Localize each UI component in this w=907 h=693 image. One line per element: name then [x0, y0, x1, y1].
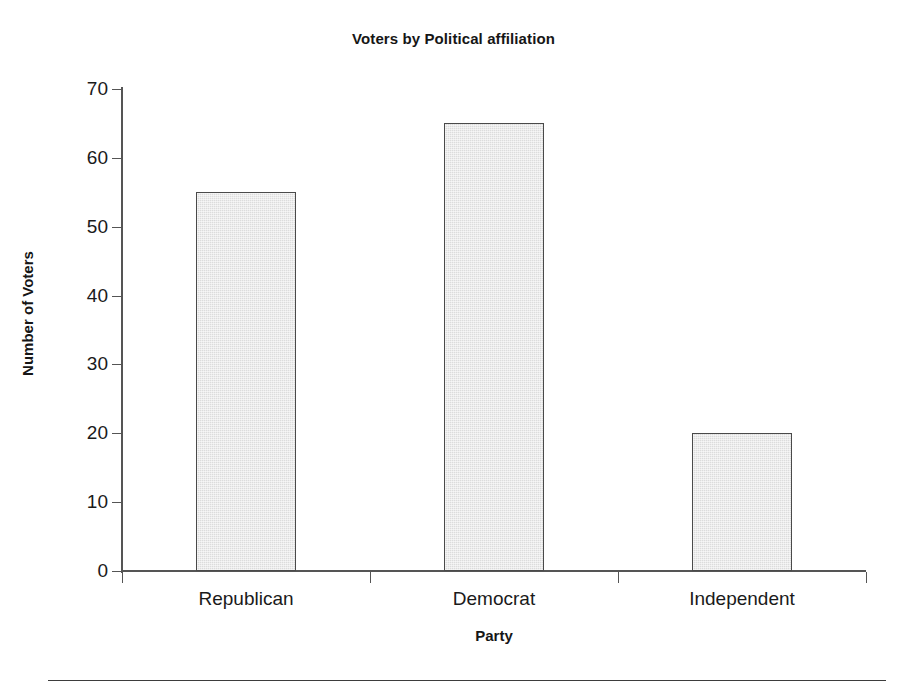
category-label: Independent [618, 588, 866, 610]
y-tick [112, 433, 122, 434]
y-tick [112, 571, 122, 572]
x-tick [122, 572, 123, 583]
y-tick-label: 60 [60, 148, 108, 167]
y-tick-label: 0 [60, 561, 108, 580]
y-tick [112, 227, 122, 228]
x-axis-title: Party [122, 627, 866, 644]
x-tick [370, 572, 371, 583]
bar-independent [692, 433, 792, 571]
y-tick-label: 20 [60, 423, 108, 442]
y-tick [112, 296, 122, 297]
category-label: Republican [122, 588, 370, 610]
chart-title: Voters by Political affiliation [0, 30, 907, 47]
category-label: Democrat [370, 588, 618, 610]
y-tick-label: 30 [60, 354, 108, 373]
y-tick [112, 158, 122, 159]
x-tick [866, 572, 867, 583]
y-tick-label: 10 [60, 492, 108, 511]
bar-democrat [444, 123, 544, 571]
y-tick-label: 50 [60, 217, 108, 236]
y-tick [112, 502, 122, 503]
y-tick [112, 364, 122, 365]
bottom-divider [48, 680, 886, 681]
x-tick [618, 572, 619, 583]
y-tick-label: 40 [60, 286, 108, 305]
y-tick [112, 89, 122, 90]
y-tick-label: 70 [60, 79, 108, 98]
bar-republican [196, 192, 296, 571]
y-axis-title: Number of Voters [19, 194, 36, 434]
y-axis-line [121, 87, 123, 573]
chart-page: { "chart_data": { "type": "bar", "title"… [0, 0, 907, 693]
